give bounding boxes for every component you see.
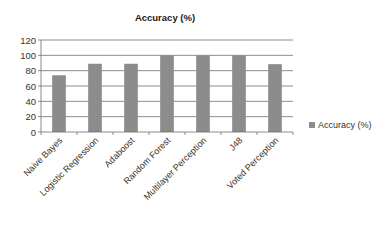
chart-title: Accuracy (%) bbox=[135, 12, 195, 23]
bars bbox=[52, 55, 282, 132]
y-tick-label: 60 bbox=[25, 81, 36, 92]
legend-swatch bbox=[309, 122, 315, 128]
bar bbox=[232, 55, 246, 132]
bar bbox=[196, 55, 210, 132]
legend-label: Accuracy (%) bbox=[318, 120, 372, 130]
x-tick-label: Adaboost bbox=[102, 135, 136, 169]
y-axis: 020406080100120 bbox=[20, 35, 41, 138]
bar-chart: Accuracy (%) 020406080100120 Naive Bayes… bbox=[0, 0, 388, 228]
y-tick-label: 0 bbox=[31, 127, 36, 138]
y-tick-label: 20 bbox=[25, 111, 36, 122]
x-tick-label: Multilayer Perception bbox=[142, 135, 209, 202]
y-tick-label: 120 bbox=[20, 35, 36, 46]
bar bbox=[160, 55, 174, 132]
y-tick-label: 80 bbox=[25, 65, 36, 76]
y-tick-label: 40 bbox=[25, 96, 36, 107]
bar bbox=[88, 64, 102, 132]
bar bbox=[124, 64, 138, 132]
x-axis: Naive BayesLogistic RegressionAdaboostRa… bbox=[22, 132, 293, 202]
legend: Accuracy (%) bbox=[309, 120, 372, 130]
bar bbox=[52, 75, 66, 132]
y-tick-label: 100 bbox=[20, 50, 36, 61]
x-tick-label: J48 bbox=[227, 135, 244, 152]
bar bbox=[268, 64, 282, 132]
